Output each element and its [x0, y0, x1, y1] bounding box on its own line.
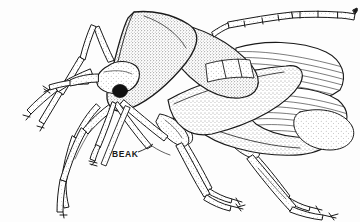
stink-bug-illustration: BEAK	[0, 0, 360, 222]
beak-label: BEAK	[112, 149, 139, 159]
compound-eye	[113, 85, 128, 98]
insect-figure: BEAK	[0, 0, 360, 222]
